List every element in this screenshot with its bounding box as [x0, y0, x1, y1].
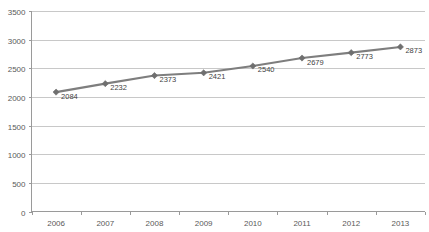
y-axis-tick-label: 1000	[8, 151, 26, 160]
y-axis-tick-labels: 0500100015002000250030003500	[8, 8, 26, 218]
chart-canvas: 0500100015002000250030003500 20062007200…	[0, 0, 429, 232]
x-axis-tick-label: 2013	[392, 219, 410, 228]
x-axis-tick-label: 2010	[244, 219, 262, 228]
data-point-label: 2873	[405, 46, 422, 55]
data-point-marker	[102, 81, 108, 87]
data-point-marker	[151, 72, 157, 78]
x-axis-tick-label: 2009	[195, 219, 213, 228]
data-point-marker	[53, 89, 59, 95]
y-axis-tick-label: 3500	[8, 8, 26, 17]
data-point-labels: 20842232237324212540267927732873	[61, 46, 422, 100]
y-axis-tick-label: 3000	[8, 37, 26, 46]
x-axis-tick-label: 2007	[96, 219, 114, 228]
data-point-label: 2232	[110, 83, 127, 92]
y-axis-tick-label: 500	[12, 180, 26, 189]
data-series	[53, 44, 404, 95]
y-axis-tick-label: 0	[21, 209, 26, 218]
data-point-label: 2421	[209, 72, 226, 81]
data-point-marker	[397, 44, 403, 50]
data-point-marker	[348, 50, 354, 56]
x-axis-tick-label: 2011	[293, 219, 311, 228]
data-point-label: 2373	[159, 75, 176, 84]
x-axis-tick-label: 2008	[146, 219, 164, 228]
gridlines	[32, 12, 426, 184]
y-axis-tick-label: 2000	[8, 94, 26, 103]
x-axis-tick-label: 2012	[342, 219, 360, 228]
y-axis-tick-label: 2500	[8, 65, 26, 74]
data-point-label: 2679	[307, 58, 324, 67]
data-point-label: 2773	[356, 52, 373, 61]
data-point-label: 2540	[258, 65, 275, 74]
x-axis-tick-label: 2006	[47, 219, 65, 228]
line-chart: 0500100015002000250030003500 20062007200…	[0, 0, 429, 232]
data-point-marker	[299, 55, 305, 61]
data-point-marker	[201, 70, 207, 76]
y-axis-tick-label: 1500	[8, 123, 26, 132]
data-point-label: 2084	[61, 92, 78, 101]
x-axis-tick-labels: 20062007200820092010201120122013	[47, 219, 410, 228]
